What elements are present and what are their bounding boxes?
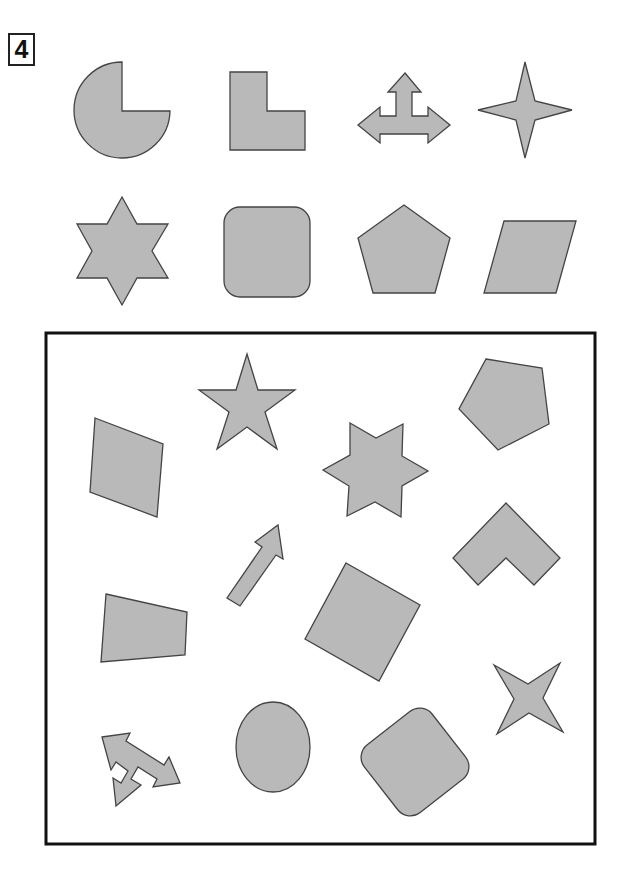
trapezoid-shape bbox=[101, 594, 187, 662]
arrow-shape bbox=[227, 525, 283, 606]
six-point-star-rotated-shape bbox=[323, 423, 428, 517]
three-way-arrow-shape bbox=[358, 73, 450, 143]
rounded-square-rotated-shape bbox=[355, 702, 476, 823]
chevron-shape bbox=[453, 503, 560, 585]
l-shape bbox=[230, 72, 305, 150]
parallelogram-rotated-shape bbox=[90, 418, 163, 517]
pentagon-shape bbox=[358, 205, 450, 293]
three-way-arrow-rotated-shape bbox=[102, 733, 180, 806]
four-point-star-shape bbox=[478, 62, 572, 158]
five-point-star-shape bbox=[199, 354, 295, 449]
four-point-star-rotated-shape bbox=[494, 663, 563, 734]
ellipse-shape bbox=[236, 702, 310, 792]
rounded-square-shape bbox=[224, 207, 310, 297]
three-quarter-circle-shape bbox=[74, 62, 170, 158]
pentagon-rotated-shape bbox=[459, 359, 549, 450]
parallelogram-shape bbox=[484, 221, 576, 293]
puzzle-canvas bbox=[0, 0, 624, 895]
rotated-square-shape bbox=[305, 563, 420, 681]
six-point-star-shape bbox=[77, 197, 168, 305]
